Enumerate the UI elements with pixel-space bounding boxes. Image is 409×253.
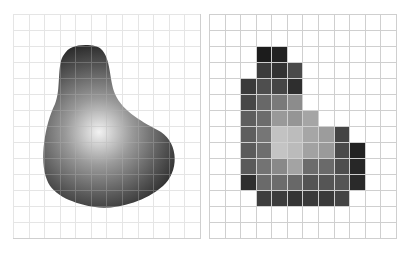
pixel-cell	[287, 78, 303, 94]
pixel-cell	[287, 30, 303, 46]
pixel-cell	[349, 206, 365, 222]
pixel-cell	[349, 190, 365, 206]
pixel-cell	[318, 206, 334, 222]
pixel-cell	[365, 62, 381, 78]
pixel-cell	[240, 190, 256, 206]
right-grid	[209, 14, 397, 239]
pixel-cell	[318, 190, 334, 206]
pixel-cell	[240, 126, 256, 142]
pixel-cell	[334, 62, 350, 78]
pixel-cell	[318, 222, 334, 238]
pixel-cell	[380, 158, 396, 174]
pixel-cell	[365, 110, 381, 126]
pixel-cell	[240, 62, 256, 78]
pixel-cell	[209, 206, 225, 222]
pixel-cell	[209, 174, 225, 190]
pixel-cell	[334, 110, 350, 126]
pixel-cell	[256, 78, 272, 94]
pixel-cell	[225, 62, 241, 78]
pixel-cell	[240, 174, 256, 190]
pixel-cell	[240, 78, 256, 94]
pixel-cell	[225, 190, 241, 206]
pixel-cell	[225, 14, 241, 30]
pixel-cell	[256, 94, 272, 110]
pixel-cell	[271, 174, 287, 190]
pixel-cell	[349, 30, 365, 46]
pixel-cell	[380, 110, 396, 126]
pixel-cell	[287, 190, 303, 206]
pixel-cell	[349, 110, 365, 126]
pixel-cell	[380, 206, 396, 222]
pixel-cell	[256, 14, 272, 30]
pixel-cell	[302, 62, 318, 78]
pixel-cell	[349, 158, 365, 174]
pixel-cell	[225, 78, 241, 94]
pixel-cell	[318, 46, 334, 62]
pixel-cell	[334, 30, 350, 46]
pixel-cell	[225, 158, 241, 174]
pixel-cell	[349, 62, 365, 78]
pixel-cell	[240, 142, 256, 158]
pixel-cell	[209, 78, 225, 94]
pixel-cell	[318, 174, 334, 190]
pixel-cell	[334, 14, 350, 30]
pixel-cell	[209, 62, 225, 78]
pixel-cell	[287, 46, 303, 62]
pixel-cell	[365, 158, 381, 174]
pixel-cell	[318, 14, 334, 30]
pixel-cell	[287, 14, 303, 30]
pixel-cell	[225, 142, 241, 158]
pixel-cell	[225, 206, 241, 222]
pixel-cell	[380, 30, 396, 46]
pixel-cell	[302, 110, 318, 126]
pixel-cell	[380, 190, 396, 206]
pixel-cell	[240, 158, 256, 174]
pixel-cell	[349, 126, 365, 142]
pixel-cell	[365, 94, 381, 110]
pixel-cell	[209, 190, 225, 206]
pixel-cell	[349, 94, 365, 110]
pixel-cell	[225, 110, 241, 126]
pixel-cell	[365, 222, 381, 238]
pixel-cell	[287, 174, 303, 190]
pixel-cell	[334, 46, 350, 62]
pixel-cell	[287, 94, 303, 110]
pixel-cell	[225, 30, 241, 46]
pixel-cell	[318, 30, 334, 46]
pixel-cell	[209, 126, 225, 142]
pixel-cell	[209, 222, 225, 238]
pixel-cell	[365, 78, 381, 94]
pixel-cell	[302, 126, 318, 142]
pixel-cell	[225, 222, 241, 238]
pixel-cell	[271, 94, 287, 110]
pixel-cell	[209, 158, 225, 174]
pixel-cell	[209, 142, 225, 158]
pixel-cell	[318, 142, 334, 158]
pixel-cell	[287, 62, 303, 78]
pixel-cell	[349, 78, 365, 94]
pixel-cell	[287, 222, 303, 238]
pixel-cell	[271, 46, 287, 62]
pixel-cell	[380, 62, 396, 78]
pixel-cell	[334, 158, 350, 174]
pixel-cell	[256, 110, 272, 126]
pixel-cell	[271, 30, 287, 46]
pixel-cell	[302, 14, 318, 30]
pixel-cell	[318, 158, 334, 174]
pixel-cell	[240, 94, 256, 110]
pixel-cell	[349, 222, 365, 238]
pixel-cell	[271, 222, 287, 238]
pixel-cell	[334, 142, 350, 158]
pixelated-image-panel	[209, 14, 397, 239]
pixel-cell	[302, 222, 318, 238]
pixel-cell	[380, 222, 396, 238]
pixel-cell	[365, 206, 381, 222]
pixel-cell	[380, 126, 396, 142]
pixel-cell	[287, 158, 303, 174]
pixel-cell	[302, 190, 318, 206]
pixel-cell	[334, 206, 350, 222]
pixel-cell	[287, 142, 303, 158]
pixel-cell	[209, 46, 225, 62]
pixel-cell	[365, 30, 381, 46]
pixel-cell	[318, 94, 334, 110]
